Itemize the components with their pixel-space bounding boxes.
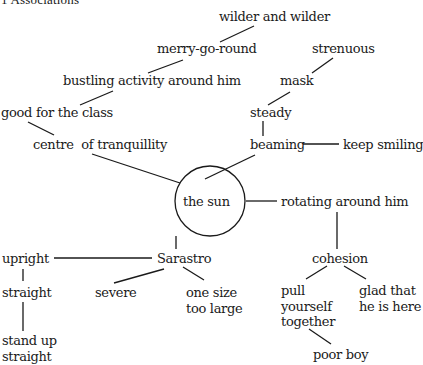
node-line: one size [186, 285, 242, 301]
node-poor-boy: poor boy [313, 347, 368, 363]
edge-sun-centre [92, 154, 180, 183]
node-strenuous: strenuous [312, 41, 375, 57]
node-merry-go-round: merry-go-round [157, 41, 257, 57]
node-wilder-and-wilder: wilder and wilder [219, 9, 330, 25]
node-mask: mask [280, 73, 313, 89]
node-severe: severe [95, 285, 137, 301]
node-line: yourself [281, 299, 335, 315]
node-upright: upright [2, 251, 49, 267]
node-bustling-activity: bustling activity around him [63, 73, 241, 89]
edge-merry-wilder [220, 26, 254, 42]
node-the-sun: the sun [183, 194, 230, 210]
node-sarastro: Sarastro [157, 251, 211, 267]
node-line: too large [186, 301, 242, 317]
node-one-size-too-large: one size too large [186, 285, 242, 316]
node-pull-yourself-together: pull yourself together [281, 283, 335, 330]
node-good-for-the-class: good for the class [1, 105, 113, 121]
edge-cohesion-glad [344, 266, 366, 279]
node-line: pull [281, 283, 335, 299]
edge-sarastro-onesize [183, 267, 204, 280]
edge-centre-good [28, 122, 54, 135]
node-line: together [281, 314, 335, 330]
node-keep-smiling: keep smiling [343, 137, 423, 153]
node-line: he is here [359, 299, 421, 315]
edge-steady-mask [268, 92, 290, 105]
node-centre-of-tranquillity: centre of tranquillity [33, 137, 167, 153]
node-glad-that-he-is-here: glad that he is here [359, 283, 421, 314]
node-line: stand up [2, 333, 57, 349]
node-cohesion: cohesion [312, 251, 368, 267]
node-rotating-around-him: rotating around him [281, 194, 408, 210]
figure-title: 1 Associations [1, 0, 79, 8]
edge-cohesion-pull [306, 266, 327, 279]
edge-pull-poor [309, 329, 331, 344]
node-steady: steady [250, 105, 291, 121]
node-straight: straight [2, 285, 52, 301]
node-line: glad that [359, 283, 421, 299]
edge-good-bustling [80, 91, 113, 105]
edge-bustling-merry [148, 60, 183, 73]
node-beaming: beaming [250, 137, 305, 153]
edge-sun-beaming [205, 155, 255, 179]
node-stand-up-straight: stand up straight [2, 333, 57, 364]
edge-sarastro-severe [114, 269, 164, 283]
edge-mask-strenuous [312, 58, 333, 73]
node-line: straight [2, 349, 57, 365]
